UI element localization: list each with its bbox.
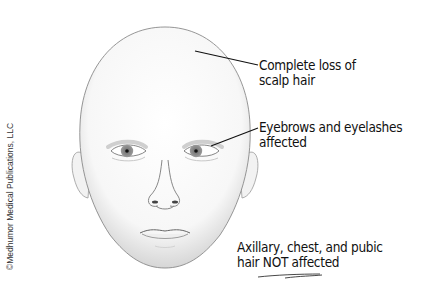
annotation-line: Complete loss of [259,58,356,73]
annotation-eyebrows-eyelashes: Eyebrows and eyelashes affected [259,120,402,150]
annotation-line: scalp hair [259,73,356,88]
annotation-body-hair-not-affected: Axillary, chest, and pubic hair NOT affe… [237,240,383,270]
annotation-line: Eyebrows and eyelashes [259,120,402,135]
annotation-line: hair NOT affected [237,255,383,270]
head-outline [80,27,250,268]
annotation-line: affected [259,135,402,150]
copyright-credit: ©Medhumor Medical Publications, LLC [5,123,15,270]
annotation-scalp-hair: Complete loss of scalp hair [259,58,356,88]
underline-squiggle [258,274,322,278]
annotation-line: Axillary, chest, and pubic [237,240,383,255]
